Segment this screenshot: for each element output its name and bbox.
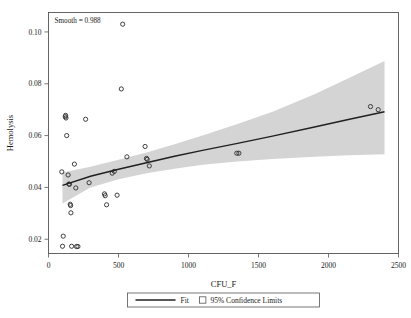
data-point [61,234,65,238]
data-point [65,133,69,137]
data-point [60,170,64,174]
x-tick-label: 0 [47,261,51,270]
chart-svg: 05001000150020002500 0.020.040.060.080.1… [0,0,411,318]
plot-area [49,13,399,254]
data-point [105,203,109,207]
legend-confidence-label: 95% Confidence Limits [211,296,283,305]
y-axis-ticks: 0.020.040.060.080.10 [28,28,48,244]
y-tick-label: 0.06 [28,131,41,140]
data-point [60,244,64,248]
data-point [84,117,88,121]
data-point [70,244,74,248]
y-tick-label: 0.10 [28,28,41,37]
data-point [72,162,76,166]
y-tick-label: 0.04 [28,183,41,192]
data-point [119,87,123,91]
hemolysis-vs-cfu-scatter-chart: 05001000150020002500 0.020.040.060.080.1… [0,0,411,318]
x-tick-label: 1500 [251,261,266,270]
confidence-band [63,61,385,204]
x-tick-label: 500 [113,261,125,270]
y-tick-label: 0.08 [28,79,41,88]
y-axis-title: Hemolysis [5,115,15,151]
x-tick-label: 2500 [391,261,406,270]
data-point [143,144,147,148]
data-point [69,211,73,215]
y-tick-label: 0.02 [28,235,41,244]
data-point [115,193,119,197]
data-point [121,22,125,26]
x-axis-ticks: 05001000150020002500 [47,254,407,270]
chart-legend: Fit 95% Confidence Limits [128,293,320,307]
legend-fit-label: Fit [181,296,190,305]
x-axis-title: CFU_F [211,279,237,289]
smooth-annotation: Smooth = 0.988 [55,17,102,25]
x-tick-label: 1000 [181,261,196,270]
x-tick-label: 2000 [321,261,336,270]
legend-confidence-swatch-icon [200,297,206,303]
